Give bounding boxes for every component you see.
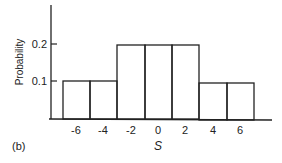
bar: [145, 45, 172, 119]
x-tick-labels: -6 -4 -2 0 2 4 6: [71, 124, 243, 136]
x-tick-label: 0: [155, 124, 161, 136]
bar: [227, 83, 254, 120]
histogram-chart: 0.2 0.1 Probability -6 -4 -2 0 2 4 6 S (…: [0, 0, 282, 163]
x-tick-label: -2: [126, 124, 136, 136]
bar: [172, 45, 199, 119]
y-tick-label-0.1: 0.1: [32, 75, 47, 87]
y-tick-label-0.2: 0.2: [32, 38, 47, 50]
bar: [90, 81, 117, 119]
x-tick-label: -4: [98, 124, 108, 136]
y-axis-label: Probability: [14, 39, 25, 86]
x-tick-label: 6: [237, 124, 243, 136]
bar: [63, 81, 90, 119]
x-tick-label: -6: [71, 124, 81, 136]
x-axis-label: S: [154, 139, 162, 153]
x-tick-label: 4: [210, 124, 216, 136]
bar: [199, 83, 227, 120]
x-tick-label: 2: [182, 124, 188, 136]
panel-label: (b): [12, 140, 25, 152]
bar: [117, 45, 145, 119]
bars: [63, 45, 254, 120]
